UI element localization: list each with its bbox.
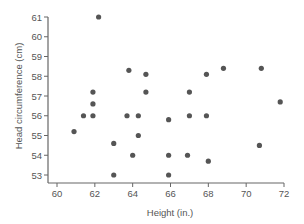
data-point xyxy=(187,89,192,94)
x-axis: 60626466687072 xyxy=(48,183,289,199)
data-point xyxy=(257,143,262,148)
data-point xyxy=(166,172,171,177)
data-point xyxy=(206,159,211,164)
y-tick-label: 56 xyxy=(31,110,42,121)
data-points xyxy=(71,14,282,177)
data-point xyxy=(187,113,192,118)
data-point xyxy=(166,117,171,122)
x-tick-label: 66 xyxy=(165,188,176,199)
data-point xyxy=(111,172,116,177)
y-tick-label: 60 xyxy=(31,31,42,42)
data-point xyxy=(143,72,148,77)
scatter-chart: 535455565758596061 60626466687072 Height… xyxy=(0,0,304,224)
data-point xyxy=(90,89,95,94)
data-point xyxy=(166,153,171,158)
y-tick-label: 58 xyxy=(31,71,42,82)
y-tick-label: 57 xyxy=(31,91,42,102)
data-point xyxy=(90,113,95,118)
data-point xyxy=(204,72,209,77)
data-point xyxy=(185,153,190,158)
data-point xyxy=(221,66,226,71)
x-tick-label: 60 xyxy=(52,188,63,199)
x-axis-title: Height (in.) xyxy=(147,207,193,218)
data-point xyxy=(90,101,95,106)
y-tick-label: 53 xyxy=(31,170,42,181)
data-point xyxy=(130,153,135,158)
y-tick-label: 61 xyxy=(31,12,42,23)
y-tick-label: 54 xyxy=(31,150,42,161)
data-point xyxy=(96,14,101,19)
x-tick-label: 62 xyxy=(90,188,101,199)
data-point xyxy=(143,89,148,94)
data-point xyxy=(259,66,264,71)
data-point xyxy=(136,113,141,118)
data-point xyxy=(81,113,86,118)
y-axis: 535455565758596061 xyxy=(31,12,48,184)
x-tick-label: 72 xyxy=(279,188,290,199)
x-tick-label: 64 xyxy=(127,188,138,199)
x-tick-label: 68 xyxy=(203,188,214,199)
data-point xyxy=(71,129,76,134)
data-point xyxy=(124,113,129,118)
data-point xyxy=(204,113,209,118)
data-point xyxy=(111,141,116,146)
data-point xyxy=(126,68,131,73)
x-tick-label: 70 xyxy=(241,188,252,199)
y-axis-title: Head circumference (cm) xyxy=(13,43,24,150)
y-tick-label: 55 xyxy=(31,130,42,141)
data-point xyxy=(136,133,141,138)
y-tick-label: 59 xyxy=(31,51,42,62)
data-point xyxy=(278,99,283,104)
